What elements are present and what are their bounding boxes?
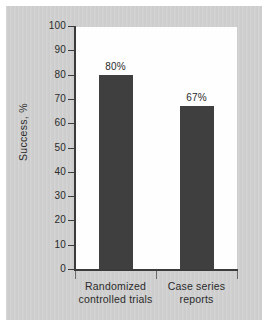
- y-axis-tick-label: 60: [40, 118, 66, 128]
- bar[interactable]: [99, 75, 133, 269]
- y-axis-tick: [68, 220, 74, 221]
- y-axis-tick: [68, 172, 74, 173]
- category-label-line: Case series: [151, 280, 243, 293]
- category-axis-end-tick: [75, 271, 76, 279]
- y-axis-tick: [68, 75, 74, 76]
- bar-value-label: 80%: [91, 61, 141, 72]
- y-axis-line: [74, 26, 76, 271]
- y-axis-tick-label: 30: [40, 191, 66, 201]
- y-axis-tick-label: 50: [40, 143, 66, 153]
- y-axis-title: Success, %: [17, 82, 29, 182]
- category-separator-tick: [156, 271, 157, 279]
- y-axis-tick-label: 40: [40, 167, 66, 177]
- y-axis-tick-label: 10: [40, 240, 66, 250]
- category-label-line: controlled trials: [70, 293, 162, 306]
- y-axis-tick: [68, 123, 74, 124]
- y-axis-tick-labels: 1009080706050403020100: [36, 6, 66, 330]
- y-axis-tick-label: 80: [40, 70, 66, 80]
- figure: 1009080706050403020100 Success, % 80%67%…: [0, 0, 268, 330]
- y-axis-tick-label: 0: [40, 264, 66, 274]
- category-label-line: Randomized: [70, 280, 162, 293]
- y-axis-tick-label: 100: [40, 21, 66, 31]
- y-axis-tick: [68, 99, 74, 100]
- y-axis-tick: [68, 148, 74, 149]
- y-axis-tick-label: 20: [40, 215, 66, 225]
- y-axis-tick: [68, 26, 74, 27]
- bar[interactable]: [180, 106, 214, 269]
- y-axis-tick: [68, 196, 74, 197]
- y-axis-tick-label: 90: [40, 45, 66, 55]
- x-axis-category-label: Randomizedcontrolled trials: [70, 280, 162, 306]
- x-axis-category-label: Case seriesreports: [151, 280, 243, 306]
- y-axis-tick: [68, 245, 74, 246]
- category-label-line: reports: [151, 293, 243, 306]
- bar-value-label: 67%: [172, 92, 222, 103]
- chart-panel: 1009080706050403020100 Success, % 80%67%…: [6, 6, 262, 320]
- y-axis-tick: [68, 50, 74, 51]
- category-axis-end-tick: [237, 271, 238, 279]
- y-axis-tick: [68, 269, 74, 270]
- y-axis-tick-label: 70: [40, 94, 66, 104]
